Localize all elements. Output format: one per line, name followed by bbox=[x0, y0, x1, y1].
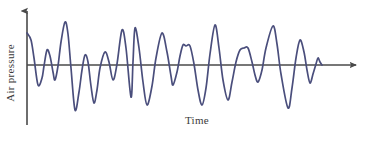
x-axis-label: Time bbox=[167, 114, 227, 126]
waveform-figure: Air pressure Time bbox=[0, 0, 376, 141]
y-axis-label: Air pressure bbox=[3, 36, 17, 110]
y-axis-label-text: Air pressure bbox=[4, 44, 16, 102]
air-pressure-waveform-line bbox=[27, 22, 322, 111]
